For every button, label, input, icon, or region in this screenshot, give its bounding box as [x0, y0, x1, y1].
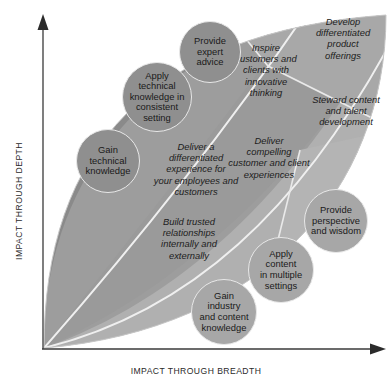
- leaf-bands: [0, 0, 392, 382]
- y-axis-arrowhead-icon: [38, 14, 49, 30]
- x-axis-arrowhead-icon: [370, 344, 386, 355]
- leaf-graphic: [0, 0, 392, 382]
- impact-leaf-diagram: IMPACT THROUGH DEPTH IMPACT THROUGH BREA…: [0, 0, 392, 382]
